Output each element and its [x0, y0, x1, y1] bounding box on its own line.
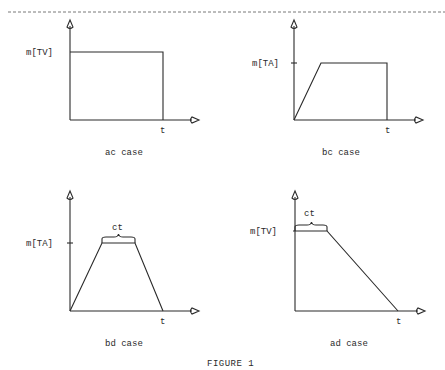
y-label: m[TA] [26, 239, 53, 249]
panel-bd: ct m[TA] t bd case [26, 191, 199, 349]
brace-icon [102, 234, 135, 243]
ramp-down-curve [293, 231, 398, 311]
y-label: m[TA] [252, 59, 279, 69]
panel-ad: ct m[TV] t ad case [250, 191, 425, 349]
x-label: t [396, 317, 401, 327]
y-label: m[TV] [250, 227, 277, 237]
ramp-curve [294, 63, 387, 120]
x-label: t [385, 126, 390, 136]
panel-bc: m[TA] t bc case [252, 20, 423, 158]
brace-label: ct [304, 209, 315, 219]
step-curve [70, 52, 163, 120]
figure-canvas: m[TV] t ac case m[TA] t bc case ct m[TA]… [0, 0, 445, 370]
brace-icon [295, 222, 327, 231]
trapezoid-curve [70, 243, 163, 311]
panel-title: bd case [105, 339, 143, 349]
brace-label: ct [112, 223, 123, 233]
panel-title: bc case [322, 148, 360, 158]
panel-title: ad case [330, 339, 368, 349]
panel-ac: m[TV] t ac case [26, 20, 199, 158]
x-label: t [160, 317, 165, 327]
y-label: m[TV] [26, 48, 53, 58]
figure-caption: FIGURE 1 [207, 359, 254, 369]
x-label: t [160, 126, 165, 136]
panel-title: ac case [105, 148, 143, 158]
